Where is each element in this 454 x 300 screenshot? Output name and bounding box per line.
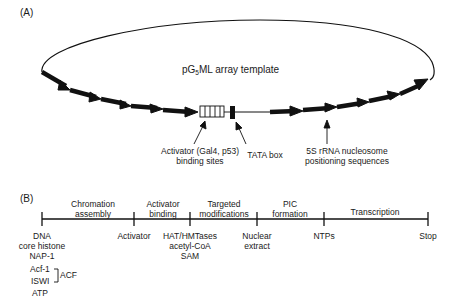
- tick-line: HAT/HMTases: [160, 231, 220, 241]
- acf-label: ACF: [60, 270, 77, 280]
- panel-b-label: (B): [20, 194, 33, 204]
- tata-box: [230, 106, 235, 119]
- stage-line2: formation: [265, 209, 315, 219]
- stage-line1: Chromation: [58, 199, 128, 209]
- tick-line: acetyl-CoA: [160, 241, 220, 251]
- stage-chromatin-assembly: Chromation assembly: [58, 199, 128, 219]
- stage-line2: binding: [137, 209, 189, 219]
- tick-line: extract: [237, 241, 277, 251]
- atp-label: ATP: [32, 288, 48, 298]
- acf-item-acf1: Acf-1: [30, 264, 50, 274]
- rrna-label: 5S rRNA nucleosome positioning sequences: [292, 146, 402, 166]
- panel-a-label: (A): [20, 8, 33, 18]
- tata-label: TATA box: [240, 150, 290, 160]
- pointer-arrows: [194, 120, 330, 144]
- acf-bracket: [54, 269, 58, 282]
- tick-line: SAM: [160, 251, 220, 261]
- stage-targeted-modifications: Targeted modifications: [192, 199, 256, 219]
- tick-label-stop: Stop: [413, 231, 443, 241]
- stage-line1: Activator: [137, 199, 189, 209]
- stage-pic-formation: PIC formation: [265, 199, 315, 219]
- title-suffix: ML array template: [199, 64, 279, 75]
- tick-line: Nuclear: [237, 231, 277, 241]
- tick-line: DNA: [12, 231, 72, 241]
- rrna-line2: positioning sequences: [292, 156, 402, 166]
- right-repeat-arrows: [270, 79, 428, 116]
- activator-binding-box: [200, 106, 230, 117]
- rrna-line1: 5S rRNA nucleosome: [292, 146, 402, 156]
- stage-line2: assembly: [58, 209, 128, 219]
- tick-line: NAP-1: [12, 251, 72, 261]
- plasmid-title: pG5ML array template: [182, 65, 279, 78]
- stage-activator-binding: Activator binding: [137, 199, 189, 219]
- acf-item-iswi: ISWI: [31, 276, 49, 286]
- left-repeat-arrows: [42, 72, 198, 117]
- tick-label-ntps: NTPs: [309, 231, 339, 241]
- tick-label-nuclear-extract: Nuclear extract: [237, 231, 277, 251]
- stage-line1: Targeted: [192, 199, 256, 209]
- stage-transcription: Transcription: [340, 207, 410, 217]
- tick-label-activator: Activator: [109, 231, 159, 241]
- stage-line1: PIC: [265, 199, 315, 209]
- stage-line2: modifications: [192, 209, 256, 219]
- tick-line: core histone: [12, 241, 72, 251]
- tick-label-start: DNA core histone NAP-1: [12, 231, 72, 261]
- tick-label-hat: HAT/HMTases acetyl-CoA SAM: [160, 231, 220, 261]
- title-prefix: pG: [182, 64, 195, 75]
